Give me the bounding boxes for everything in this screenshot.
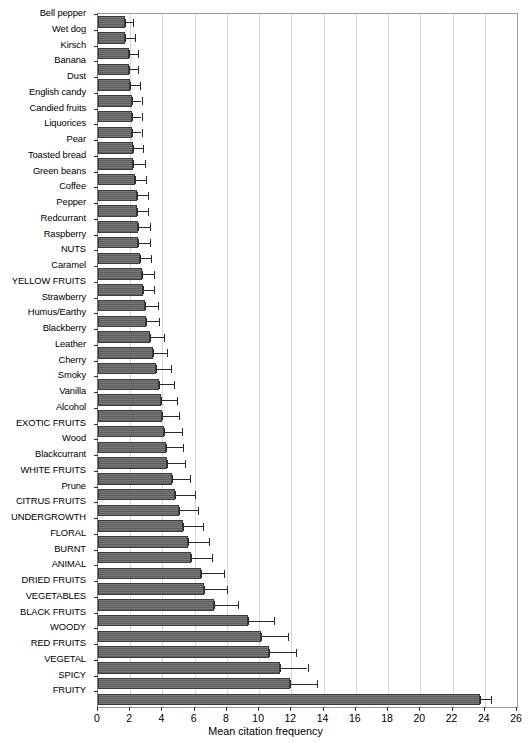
bar-chart: Bell pepperWet dogKirschBananaDustEnglis…	[0, 0, 531, 743]
error-bar	[146, 321, 159, 322]
error-bar-cap	[161, 397, 162, 405]
error-bar	[129, 69, 139, 70]
bar	[98, 300, 145, 311]
bar	[98, 111, 132, 122]
error-bar	[133, 164, 144, 165]
y-axis-tick	[94, 550, 98, 551]
error-bar	[150, 337, 165, 338]
error-bar	[143, 290, 154, 291]
bar	[98, 568, 201, 579]
error-bar	[248, 621, 274, 622]
error-bar-cap	[238, 601, 239, 609]
x-axis-tick-label: 12	[285, 712, 297, 724]
bar-row	[98, 46, 517, 63]
error-bar	[201, 573, 224, 574]
bar	[98, 646, 269, 657]
bar-row	[98, 376, 517, 393]
error-bar-cap	[130, 82, 131, 90]
category-label: Humus/Earthy	[28, 307, 86, 317]
error-bar-cap	[248, 617, 249, 625]
y-axis-tick	[94, 424, 98, 425]
bar-row	[98, 660, 517, 677]
error-bar-cap	[204, 586, 205, 594]
x-axis-tick-label: 20	[413, 712, 425, 724]
y-axis-tick	[94, 502, 98, 503]
error-bar	[480, 699, 491, 700]
bar-row	[98, 565, 517, 582]
error-bar-cap	[280, 664, 281, 672]
category-label: Prune	[61, 481, 86, 491]
category-label: SPICY	[58, 670, 86, 680]
category-label: Banana	[54, 55, 86, 65]
bar-row	[98, 613, 517, 630]
bar-row	[98, 140, 517, 157]
bar-row	[98, 203, 517, 220]
bar	[98, 253, 140, 264]
error-bar-cap	[261, 633, 262, 641]
error-bar	[179, 510, 198, 511]
error-bar-cap	[159, 381, 160, 389]
bar-row	[98, 266, 517, 283]
error-bar-cap	[132, 113, 133, 121]
error-bar	[188, 542, 209, 543]
error-bar-cap	[269, 649, 270, 657]
error-bar-cap	[138, 223, 139, 231]
bar	[98, 662, 280, 673]
category-label: Leather	[55, 339, 86, 349]
error-bar-cap	[296, 649, 297, 657]
bar-row	[98, 313, 517, 330]
bar	[98, 142, 133, 153]
bar-row	[98, 250, 517, 267]
category-label: Pepper	[56, 197, 86, 207]
bar-row	[98, 235, 517, 252]
error-bar	[142, 274, 155, 275]
error-bar-cap	[175, 491, 176, 499]
y-axis-tick	[94, 109, 98, 110]
category-label: Cherry	[58, 355, 86, 365]
error-bar-cap	[133, 19, 134, 27]
error-bar-cap	[129, 66, 130, 74]
bar	[98, 331, 150, 342]
x-axis-tick-label: 24	[478, 712, 490, 724]
error-bar-cap	[140, 255, 141, 263]
bar	[98, 237, 138, 248]
error-bar-cap	[135, 176, 136, 184]
error-bar-cap	[491, 696, 492, 704]
error-bar-cap	[148, 192, 149, 200]
error-bar-cap	[164, 428, 165, 436]
bar-row	[98, 124, 517, 141]
error-bar	[191, 558, 212, 559]
category-label: CITRUS FRUITS	[16, 496, 86, 506]
error-bar-cap	[201, 570, 202, 578]
bar-row	[98, 424, 517, 441]
error-bar-cap	[290, 680, 291, 688]
error-bar	[280, 668, 307, 669]
bar	[98, 16, 125, 27]
category-label: Candied fruits	[30, 103, 86, 113]
plot-area	[97, 13, 518, 708]
error-bar-cap	[133, 160, 134, 168]
y-axis-tick	[94, 282, 98, 283]
bar-row	[98, 439, 517, 456]
x-axis-tick-label: 4	[159, 712, 165, 724]
error-bar-cap	[179, 507, 180, 515]
y-axis-tick	[94, 392, 98, 393]
bar	[98, 520, 183, 531]
error-bar-cap	[274, 617, 275, 625]
error-bar-cap	[133, 145, 134, 153]
y-axis-tick	[94, 439, 98, 440]
bar-row	[98, 455, 517, 472]
bar	[98, 394, 161, 405]
error-bar	[133, 148, 143, 149]
error-bar-cap	[195, 491, 196, 499]
error-bar-cap	[185, 460, 186, 468]
category-label: Liquorices	[44, 118, 86, 128]
x-axis-tick	[452, 707, 453, 711]
bar	[98, 489, 175, 500]
category-label: NUTS	[61, 244, 86, 254]
y-axis-tick	[94, 644, 98, 645]
error-bar	[153, 353, 168, 354]
bar-row	[98, 487, 517, 504]
error-bar	[132, 117, 142, 118]
y-axis-tick	[94, 219, 98, 220]
